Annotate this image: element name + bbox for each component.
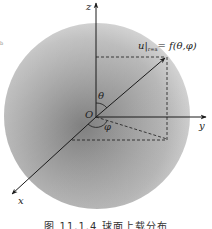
boundary-subscript: r=a (148, 46, 158, 52)
origin-label: O (85, 110, 93, 120)
boundary-rhs: = f(θ,φ) (157, 40, 196, 51)
margin-mark: b (0, 40, 3, 46)
sphere-coordinate-diagram (0, 0, 212, 229)
boundary-condition-label: u|r=a= f(θ,φ) (138, 41, 197, 52)
figure-caption: 图 11.1.4 球面上载分布 (0, 218, 212, 229)
z-axis-label: z (86, 2, 91, 12)
y-axis-label: y (199, 121, 205, 131)
theta-label: θ (98, 91, 104, 101)
x-axis-label: x (18, 196, 24, 206)
phi-label: φ (104, 122, 111, 132)
